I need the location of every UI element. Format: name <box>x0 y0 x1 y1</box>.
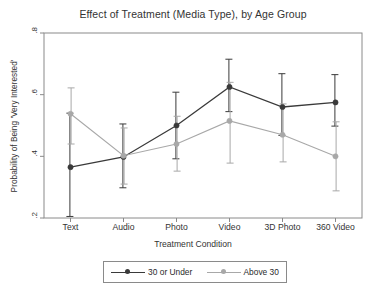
legend-item-30-or-under: 30 or Under <box>111 267 192 277</box>
series-line-1 <box>71 114 336 157</box>
series-markers-1 <box>68 111 338 159</box>
data-point <box>174 123 179 128</box>
plot-area <box>0 0 386 288</box>
series-markers-0 <box>68 84 338 169</box>
legend-marker-icon <box>207 268 241 277</box>
data-point <box>280 132 285 137</box>
series-line-0 <box>71 87 336 167</box>
data-point <box>333 154 338 159</box>
data-point <box>174 141 179 146</box>
data-point <box>121 153 126 158</box>
series-errorbars-0 <box>66 59 338 216</box>
data-point <box>227 118 232 123</box>
legend-marker-icon <box>111 268 145 277</box>
data-point <box>68 111 73 116</box>
series-errorbars-1 <box>68 82 340 191</box>
data-point <box>333 100 338 105</box>
plot-frame <box>44 33 362 218</box>
data-point <box>68 165 73 170</box>
legend-label: Above 30 <box>244 267 279 277</box>
data-point <box>280 104 285 109</box>
legend-label: 30 or Under <box>148 267 192 277</box>
data-point <box>227 84 232 89</box>
legend-item-above-30: Above 30 <box>207 267 279 277</box>
chart-figure: Effect of Treatment (Media Type), by Age… <box>0 0 386 288</box>
chart-legend: 30 or Under Above 30 <box>103 261 287 283</box>
